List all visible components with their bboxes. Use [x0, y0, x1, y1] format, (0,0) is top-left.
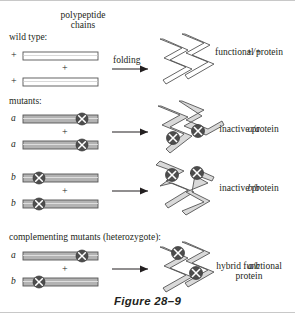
result-description-ab-line2: protein: [203, 271, 295, 282]
mutation-marker-ab-b: [33, 276, 45, 288]
mutation-marker-ab-protein-upper: [172, 247, 185, 260]
folding-arrow-ab: [112, 266, 148, 273]
figure-panel: polypeptide chains wild type: + + + +/+ …: [0, 0, 295, 313]
figure-caption: Figure 28–9: [0, 295, 295, 307]
mutation-marker-ab-protein-lower: [190, 267, 203, 280]
folding-label: folding: [113, 55, 140, 66]
mutation-marker-ab-a: [76, 250, 88, 262]
